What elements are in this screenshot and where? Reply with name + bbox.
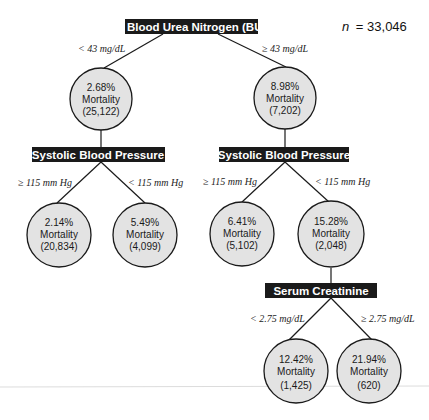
sbp-left-high-condition: ≥ 115 mm Hg [18,177,72,188]
node-creatinine-low-count: (1,425) [280,380,312,391]
node-creatinine-low-pct: 12.42% [279,354,313,365]
node-creatinine-high-pct: 21.94% [352,354,386,365]
node-sbp-left-high-label: Mortality [40,229,78,240]
creatinine-label: Serum Creatinine [273,285,368,297]
bun-right-condition: ≥ 43 mg/dL [262,43,308,54]
decision-tree: Blood Urea Nitrogen (BUN n = 33,046 < 43… [0,0,429,420]
sbp-left-label: Systolic Blood Pressure [32,149,164,161]
node-sbp-left-low-count: (4,099) [129,241,161,252]
node-bun-low-count: (25,122) [82,106,119,117]
svg-text:n = 33,046: n = 33,046 [342,19,407,34]
node-sbp-right-high-count: (5,102) [226,240,258,251]
node-sbp-right-high-pct: 6.41% [228,216,256,227]
node-bun-low: 2.68% Mortality (25,122) [70,68,132,130]
node-bun-low-pct: 2.68% [87,82,115,93]
node-sbp-left-high: 2.14% Mortality (20,834) [27,203,91,267]
sbp-left-low-condition: < 115 mm Hg [128,177,183,188]
node-bun-high-label: Mortality [266,93,304,104]
node-sbp-left-high-pct: 2.14% [45,217,73,228]
node-creatinine-high-count: (620) [357,380,380,391]
sample-size-value: = 33,046 [356,19,407,34]
node-sbp-right-low-pct: 15.28% [314,216,348,227]
node-creatinine-low-label: Mortality [277,366,315,377]
root-split-box: Blood Urea Nitrogen (BUN [125,19,271,34]
node-bun-high-pct: 8.98% [271,81,299,92]
sbp-left-split-box: Systolic Blood Pressure [32,147,165,162]
node-creatinine-high: 21.94% Mortality (620) [337,339,401,403]
node-sbp-right-low: 15.28% Mortality (2,048) [298,201,364,267]
node-sbp-left-low: 5.49% Mortality (4,099) [113,203,177,267]
sbp-right-label: Systolic Blood Pressure [218,149,350,161]
sbp-right-high-condition: ≥ 115 mm Hg [203,176,257,187]
node-sbp-right-low-count: (2,048) [315,240,347,251]
root-split-label: Blood Urea Nitrogen (BUN [127,21,271,33]
node-creatinine-high-label: Mortality [350,366,388,377]
node-sbp-right-high: 6.41% Mortality (5,102) [210,202,274,266]
node-bun-high: 8.98% Mortality (7,202) [254,67,316,129]
sample-size-label: n = 33,046 [342,19,407,34]
creatinine-high-condition: ≥ 2.75 mg/dL [361,313,415,324]
node-sbp-right-high-label: Mortality [223,228,261,239]
creatinine-low-condition: < 2.75 mg/dL [250,313,305,324]
node-sbp-right-low-label: Mortality [312,228,350,239]
node-sbp-left-low-pct: 5.49% [131,217,159,228]
sbp-right-split-box: Systolic Blood Pressure [218,147,350,162]
sbp-right-low-condition: < 115 mm Hg [315,176,370,187]
node-bun-low-label: Mortality [82,94,120,105]
bun-left-condition: < 43 mg/dL [78,43,126,54]
node-bun-high-count: (7,202) [269,105,301,116]
node-sbp-left-low-label: Mortality [126,229,164,240]
node-sbp-left-high-count: (20,834) [40,241,77,252]
node-creatinine-low: 12.42% Mortality (1,425) [264,339,328,403]
creatinine-split-box: Serum Creatinine [265,283,377,298]
sample-size-prefix: n [342,19,349,34]
